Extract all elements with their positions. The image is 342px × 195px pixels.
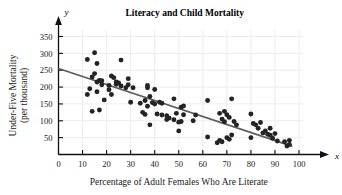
y-tick-label: 50 (44, 133, 53, 143)
data-point (227, 137, 232, 142)
x-tick-label: 50 (175, 159, 184, 169)
data-points (85, 50, 292, 148)
data-point (85, 92, 90, 97)
data-point (152, 87, 157, 92)
data-point (92, 71, 97, 76)
data-point (145, 85, 150, 90)
data-point (229, 96, 234, 101)
data-point (205, 98, 210, 103)
trend-line (59, 69, 292, 147)
data-point (159, 101, 164, 106)
x-tick-label: 10 (78, 159, 87, 169)
data-point (167, 116, 172, 121)
data-point (109, 92, 114, 97)
data-point (147, 94, 152, 99)
y-tick-label: 200 (40, 82, 53, 92)
x-tick-label: 100 (293, 159, 306, 169)
y-axis-variable-label: y (64, 7, 69, 17)
data-point (270, 136, 275, 141)
x-tick-label: 30 (126, 159, 135, 169)
scatter-plot-figure: 0102030405060708090100501001502002503003… (0, 0, 342, 195)
y-tick-label: 300 (40, 49, 53, 59)
data-point (174, 111, 179, 116)
y-tick-label: 150 (40, 99, 53, 109)
x-tick-label: 20 (102, 159, 111, 169)
x-axis-title: Percentage of Adult Females Who Are Lite… (90, 177, 268, 187)
x-tick-label: 90 (271, 159, 280, 169)
data-point (258, 120, 263, 125)
y-tick-label: 100 (40, 116, 53, 126)
data-point (119, 58, 124, 63)
data-point (143, 112, 148, 117)
data-point (126, 82, 131, 87)
data-point (256, 126, 261, 131)
data-point (95, 61, 100, 66)
data-point (229, 132, 234, 137)
data-point (181, 112, 186, 117)
data-point (220, 139, 225, 144)
y-axis-title-line1: Under-Five Mortality (8, 54, 18, 136)
x-tick-label: 70 (223, 159, 232, 169)
data-point (147, 122, 152, 127)
chart-canvas: 0102030405060708090100501001502002503003… (0, 0, 342, 195)
data-point (171, 117, 176, 122)
data-point (152, 101, 157, 106)
data-point (171, 96, 176, 101)
data-point (138, 101, 143, 106)
data-point (87, 86, 92, 91)
y-tick-label: 250 (40, 65, 53, 75)
data-point (107, 87, 112, 92)
data-point (273, 131, 278, 136)
data-point (287, 142, 292, 147)
data-point (107, 83, 112, 88)
data-point (126, 76, 131, 81)
data-point (131, 85, 136, 90)
data-point (90, 109, 95, 114)
data-point (92, 50, 97, 55)
data-point (181, 104, 186, 109)
data-point (176, 128, 181, 133)
x-tick-label: 40 (150, 159, 159, 169)
data-point (128, 100, 133, 105)
y-axis-arrowhead (55, 16, 62, 25)
data-point (143, 98, 148, 103)
data-point (268, 126, 273, 131)
data-point (234, 122, 239, 127)
x-tick-label: 80 (247, 159, 256, 169)
x-axis-variable-label: x (334, 151, 339, 161)
data-point (179, 119, 184, 124)
y-axis-title-line2: (per thousand) (19, 68, 30, 123)
regression-line (59, 69, 292, 147)
data-point (217, 111, 222, 116)
data-point (191, 118, 196, 123)
data-point (85, 57, 90, 62)
data-point (95, 89, 100, 94)
data-point (193, 113, 198, 118)
x-tick-label: 0 (56, 159, 60, 169)
data-point (227, 115, 232, 120)
chart-title: Literacy and Child Mortality (126, 8, 245, 18)
data-point (145, 104, 150, 109)
data-point (248, 112, 253, 117)
data-point (155, 112, 160, 117)
data-point (97, 108, 102, 113)
data-point (102, 97, 107, 102)
data-point (119, 84, 124, 89)
data-point (222, 119, 227, 124)
x-tick-label: 60 (199, 159, 208, 169)
y-tick-label: 350 (40, 32, 53, 42)
data-point (275, 139, 280, 144)
data-point (111, 75, 116, 80)
data-point (248, 135, 253, 140)
data-point (282, 139, 287, 144)
data-point (205, 135, 210, 140)
data-point (159, 113, 164, 118)
data-point (99, 82, 104, 87)
x-axis-arrowhead (320, 151, 329, 158)
